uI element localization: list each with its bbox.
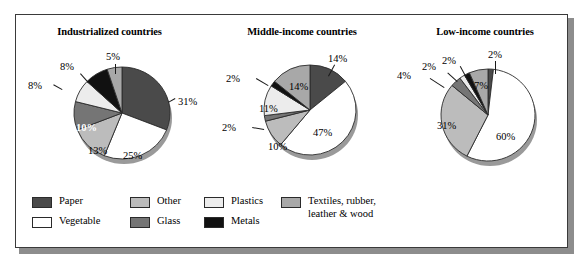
legend-swatch-other [130,197,150,208]
legend-label-plastics: Plastics [231,195,263,207]
pie-chart-middle-income: 14%47%10%2%11%2%14% [212,50,392,190]
pie-svg-1 [212,50,392,190]
pie-value-label: 8% [28,81,42,92]
panel-title-industrialized: Industrialized countries [22,26,197,37]
pie-chart-industrialized: 31%25%13%10%8%8%5% [22,50,197,190]
pie-panel-low-income: Low-income countries 2%60%31%4%2%2%7% [400,26,570,191]
pie-value-label: 4% [397,71,411,82]
pie-value-label: 2% [442,56,456,67]
legend-column-3: Plastics Metals [204,195,263,235]
label-leader-line [115,64,116,74]
pie-value-label: 11% [259,104,278,115]
pie-value-label: 2% [422,62,436,73]
legend-swatch-vegetable [32,217,52,228]
figure-root: Industrialized countries 31%25%13%10%8%8… [0,0,585,273]
legend: Paper Vegetable Other Glass Plastics [32,195,532,241]
panel-title-low-income: Low-income countries [400,26,570,37]
legend-item-plastics[interactable]: Plastics [204,195,263,215]
legend-column-4: Textiles, rubber, leather & wood [281,195,376,215]
legend-column-2: Other Glass [130,195,181,235]
legend-label-glass: Glass [157,215,180,227]
pie-value-label: 14% [289,82,308,93]
pie-value-label: 60% [496,132,515,143]
pie-value-label: 2% [488,50,502,61]
legend-label-vegetable: Vegetable [59,215,100,227]
legend-column-1: Paper Vegetable [32,195,100,235]
legend-item-vegetable[interactable]: Vegetable [32,215,100,235]
pie-value-label: 10% [76,123,97,134]
pie-svg-0 [22,50,197,190]
pie-value-label: 47% [313,128,332,139]
pie-value-label: 5% [106,52,120,63]
legend-item-textiles[interactable]: Textiles, rubber, leather & wood [281,195,376,215]
pie-value-label: 2% [226,74,240,85]
pie-value-label: 10% [268,142,287,153]
legend-swatch-glass [130,217,150,228]
pie-value-label: 31% [178,97,197,108]
legend-swatch-textiles [281,197,301,208]
legend-item-metals[interactable]: Metals [204,215,263,235]
pie-value-label: 7% [474,81,488,92]
legend-swatch-paper [32,197,52,208]
panel-title-middle-income: Middle-income countries [212,26,392,37]
pie-panel-middle-income: Middle-income countries 14%47%10%2%11%2%… [212,26,392,191]
pie-value-label: 25% [123,151,142,162]
label-leader-line [495,61,496,74]
pie-chart-low-income: 2%60%31%4%2%2%7% [400,50,570,190]
pie-panel-industrialized: Industrialized countries 31%25%13%10%8%8… [22,26,197,191]
legend-label-textiles: Textiles, rubber, leather & wood [308,195,376,220]
legend-label-other: Other [157,195,181,207]
pie-value-label: 2% [222,123,236,134]
legend-item-glass[interactable]: Glass [130,215,181,235]
pie-value-label: 31% [437,121,456,132]
pie-value-label: 13% [88,146,107,157]
pie-value-label: 8% [60,62,74,73]
legend-label-metals: Metals [231,215,260,227]
legend-swatch-plastics [204,197,224,208]
legend-item-paper[interactable]: Paper [32,195,100,215]
pie-value-label: 14% [328,54,347,65]
legend-label-paper: Paper [59,195,83,207]
legend-item-other[interactable]: Other [130,195,181,215]
legend-swatch-metals [204,217,224,228]
